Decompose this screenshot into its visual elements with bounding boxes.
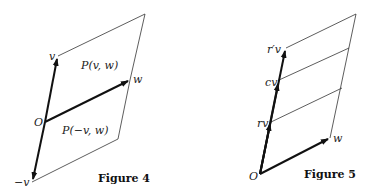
figure-4: v w O −v P(v, w) P(−v, w) Figure 4 xyxy=(14,14,150,189)
label-w: w xyxy=(133,73,143,86)
label-w: w xyxy=(333,132,343,145)
vector-w xyxy=(45,81,128,122)
vector-rv xyxy=(260,124,270,174)
parallelogram-outline xyxy=(286,14,356,138)
label-region-p-v-w: P(v, w) xyxy=(80,59,118,72)
label-origin: O xyxy=(249,170,258,183)
vector-neg-v xyxy=(33,122,45,179)
caption-figure-5: Figure 5 xyxy=(304,168,356,181)
label-neg-v: −v xyxy=(14,176,30,189)
label-region-p-neg-v-w: P(−v, w) xyxy=(61,124,109,137)
label-cv: cv xyxy=(265,76,278,89)
label-v: v xyxy=(49,50,56,63)
divider-rv xyxy=(271,88,342,122)
caption-figure-4: Figure 4 xyxy=(98,172,150,185)
figures-canvas: v w O −v P(v, w) P(−v, w) Figure 4 r′v c… xyxy=(0,0,366,195)
divider-cv xyxy=(279,48,349,80)
label-origin: O xyxy=(34,116,43,129)
label-r-prime-v: r′v xyxy=(267,43,282,56)
figure-5: r′v cv rv w O Figure 5 xyxy=(249,14,356,183)
vector-v xyxy=(45,59,57,122)
label-rv: rv xyxy=(257,117,269,130)
